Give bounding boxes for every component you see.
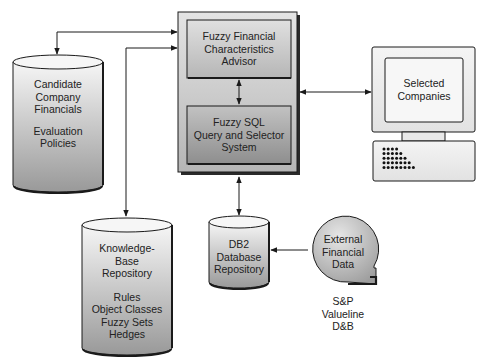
knowledge-base-label: Knowledge- Base Repository Rules Object … — [82, 242, 172, 341]
label-line: Repository — [209, 263, 269, 276]
label-line: Characteristics — [187, 43, 291, 56]
label-line: Repository — [82, 267, 172, 280]
label-line: Valueline — [310, 308, 376, 321]
label-line: Fuzzy Financial — [187, 30, 291, 43]
label-line: System — [187, 141, 291, 154]
label-line: Data — [310, 258, 376, 271]
label-line: D&B — [310, 320, 376, 333]
label-line: Hedges — [82, 328, 172, 341]
edge-knowledge-advisor — [126, 48, 177, 216]
label-line: Base — [82, 255, 172, 268]
label-line: Candidate — [13, 78, 103, 91]
label-line: Financial — [310, 246, 376, 259]
label-line: Knowledge- — [82, 242, 172, 255]
label-line: DB2 — [209, 238, 269, 251]
selected-companies-label: Selected Companies — [385, 77, 463, 102]
label-line: Company — [13, 91, 103, 104]
label-line: External — [310, 233, 376, 246]
candidate-financials-label: Candidate Company Financials Evaluation … — [13, 78, 103, 150]
fuzzy-sql-label: Fuzzy SQL Query and Selector System — [187, 116, 291, 154]
label-line: Financials — [13, 103, 103, 116]
label-line: S&P — [310, 295, 376, 308]
label-line: Selected — [385, 77, 463, 90]
label-line: Object Classes — [82, 303, 172, 316]
advisor-label: Fuzzy Financial Characteristics Advisor — [187, 30, 291, 68]
db2-label: DB2 Database Repository — [209, 238, 269, 276]
external-data-label: External Financial Data — [310, 233, 376, 271]
label-line: Query and Selector — [187, 129, 291, 142]
label-line: Database — [209, 251, 269, 264]
label-line: Policies — [13, 137, 103, 150]
label-line: Advisor — [187, 55, 291, 68]
label-line: Evaluation — [13, 125, 103, 138]
edge-candidate-advisor — [57, 32, 177, 54]
external-sources-caption: S&P Valueline D&B — [310, 295, 376, 333]
label-line: Fuzzy SQL — [187, 116, 291, 129]
computer-icon — [372, 47, 475, 181]
label-line: Rules — [82, 291, 172, 304]
label-line: Companies — [385, 90, 463, 103]
label-line: Fuzzy Sets — [82, 316, 172, 329]
